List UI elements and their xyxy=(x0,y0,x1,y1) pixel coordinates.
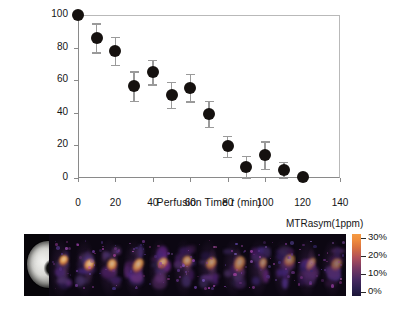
data-point xyxy=(259,149,271,161)
mri-panel xyxy=(222,234,247,296)
x-axis-label-prefix: Perfusion Time xyxy=(157,196,231,208)
mri-noise-speck xyxy=(83,287,85,289)
mri-noise-speck xyxy=(56,246,60,250)
data-point xyxy=(203,108,215,120)
error-bar-cap xyxy=(279,178,288,179)
y-tick-mark xyxy=(74,113,78,114)
colorbar-tick-mark xyxy=(361,292,366,293)
x-tick-mark xyxy=(228,178,229,182)
mri-noise-speck xyxy=(300,262,301,263)
mri-noise-speck xyxy=(340,264,342,266)
data-point xyxy=(72,9,84,21)
mri-noise-speck xyxy=(132,251,133,252)
mri-noise-speck xyxy=(143,275,145,277)
mri-noise-speck xyxy=(252,286,255,289)
mri-noise-speck xyxy=(194,286,197,289)
data-point xyxy=(222,140,234,152)
x-tick-mark xyxy=(78,178,79,182)
error-bar-cap xyxy=(261,141,270,142)
data-point xyxy=(166,89,178,101)
data-point xyxy=(128,80,140,92)
mri-noise-speck xyxy=(258,250,260,252)
mri-noise-speck xyxy=(273,263,275,265)
mri-noise-speck xyxy=(239,282,242,285)
x-axis-label-suffix: (min) xyxy=(234,196,261,208)
mri-noise-speck xyxy=(235,243,237,245)
mri-noise-speck xyxy=(294,280,295,281)
mri-noise-speck xyxy=(177,269,180,272)
colorbar-tick-mark xyxy=(361,274,366,275)
x-tick-mark xyxy=(340,178,341,182)
colorbar-gradient xyxy=(352,234,361,296)
mri-noise-speck xyxy=(53,263,55,265)
mri-panel xyxy=(197,234,222,296)
mri-noise-speck xyxy=(114,247,117,250)
mri-noise-speck xyxy=(208,287,209,288)
data-point xyxy=(147,66,159,78)
colorbar-tick-label: 0% xyxy=(368,285,382,296)
mri-noise-speck xyxy=(157,245,159,247)
cest-low-signal-region xyxy=(252,277,260,285)
mri-noise-speck xyxy=(211,258,213,260)
mri-noise-speck xyxy=(154,255,157,258)
mri-noise-speck xyxy=(61,253,63,255)
colorbar-tick-label: 20% xyxy=(368,249,387,260)
error-bar-cap xyxy=(242,177,251,178)
error-bar-cap xyxy=(261,169,270,170)
mri-noise-speck xyxy=(233,273,236,276)
error-bar-cap xyxy=(148,60,157,61)
mri-noise-speck xyxy=(167,278,169,280)
data-point xyxy=(91,32,103,44)
mri-noise-speck xyxy=(161,264,164,267)
x-tick-mark xyxy=(115,178,116,182)
error-bar-cap xyxy=(223,157,232,158)
mri-noise-speck xyxy=(299,249,300,250)
mri-noise-speck xyxy=(231,250,233,252)
x-tick-mark xyxy=(153,178,154,182)
colorbar-tick-label: 10% xyxy=(368,267,387,278)
error-bar-cap xyxy=(130,101,139,102)
error-bar-cap xyxy=(130,71,139,72)
mri-noise-speck xyxy=(318,254,320,256)
mri-noise-speck xyxy=(313,245,316,248)
mri-noise-speck xyxy=(321,279,323,281)
error-bar-cap xyxy=(148,84,157,85)
mri-panel xyxy=(247,234,272,296)
mri-noise-speck xyxy=(186,273,187,274)
error-bar-cap xyxy=(242,156,251,157)
mri-panel xyxy=(98,234,123,296)
mri-noise-speck xyxy=(144,254,145,255)
mri-noise-speck xyxy=(190,256,191,257)
cest-low-signal-region xyxy=(187,245,195,253)
mri-noise-speck xyxy=(59,267,62,270)
mri-noise-speck xyxy=(311,263,312,264)
data-point xyxy=(109,45,121,57)
mri-noise-speck xyxy=(278,261,281,264)
y-tick-label: 100 xyxy=(42,8,68,19)
mri-noise-speck xyxy=(338,261,340,263)
x-axis-label: Perfusion Time t (min) xyxy=(78,196,340,208)
error-bar-cap xyxy=(186,101,195,102)
mri-panel xyxy=(321,234,346,296)
mri-noise-speck xyxy=(66,241,68,243)
colorbar-tick-mark xyxy=(361,256,366,257)
data-point xyxy=(240,161,252,173)
mri-noise-speck xyxy=(102,246,104,248)
error-bar-cap xyxy=(92,23,101,24)
error-bar-cap xyxy=(167,108,176,109)
cest-low-signal-region xyxy=(56,278,70,284)
mri-panel xyxy=(148,234,173,296)
mri-noise-speck xyxy=(112,287,115,290)
colorbar-tick-label: 30% xyxy=(368,231,387,242)
mri-noise-speck xyxy=(267,276,270,279)
mri-panel xyxy=(49,234,74,296)
mri-noise-speck xyxy=(149,283,151,285)
mri-noise-speck xyxy=(149,246,151,248)
y-tick-mark xyxy=(74,80,78,81)
mri-noise-speck xyxy=(309,281,312,284)
data-point xyxy=(297,171,309,183)
error-bar-cap xyxy=(205,127,214,128)
mri-noise-speck xyxy=(275,279,277,281)
mri-noise-speck xyxy=(90,259,93,262)
mri-noise-speck xyxy=(75,284,78,287)
